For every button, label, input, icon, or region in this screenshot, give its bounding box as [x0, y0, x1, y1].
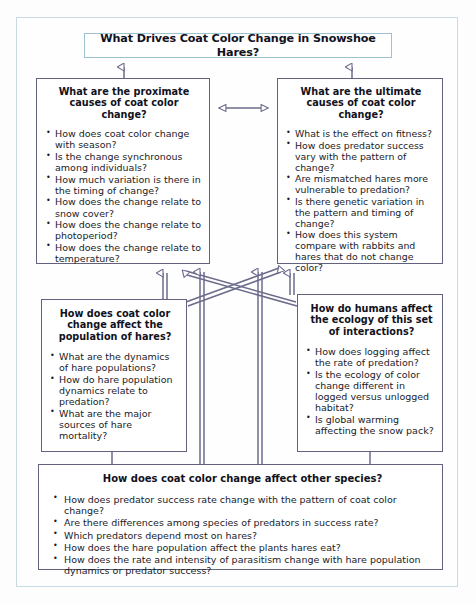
node-proximate-bullets: How does coat color change with season? …: [46, 128, 202, 264]
node-other-species-bullets: How does predator success rate change wi…: [53, 494, 432, 577]
list-item: How much variation is there in the timin…: [46, 174, 202, 196]
diagram-page: What Drives Coat Color Change in Snowsho…: [0, 0, 476, 605]
list-item: Is global warming affecting the snow pac…: [306, 414, 437, 436]
list-item: How does the change relate to temperatur…: [46, 242, 202, 264]
list-item: How does coat color change with season?: [46, 128, 202, 150]
list-item: Is there genetic variation in the patter…: [286, 196, 436, 229]
node-human-effects: How do humans affect the ecology of this…: [297, 294, 443, 452]
list-item: Are mismatched hares more vulnerable to …: [286, 173, 436, 195]
list-item: Are there differences among species of p…: [53, 517, 432, 528]
list-item: What are the major sources of hare morta…: [50, 408, 180, 441]
node-proximate-causes: What are the proximate causes of coat co…: [36, 78, 210, 264]
list-item: How does predator success rate change wi…: [53, 494, 432, 516]
title-banner-text: What Drives Coat Color Change in Snowsho…: [85, 32, 391, 58]
list-item: What are the dynamics of hare population…: [50, 351, 180, 373]
node-ultimate-title: What are the ultimate causes of coat col…: [286, 86, 436, 120]
list-item: Is the change synchronous among individu…: [46, 151, 202, 173]
list-item: What is the effect on fitness?: [286, 128, 436, 139]
list-item: How does the hare population affect the …: [53, 542, 432, 553]
list-item: Is the ecology of color change different…: [306, 369, 437, 413]
list-item: Which predators depend most on hares?: [53, 530, 432, 541]
node-humans-title: How do humans affect the ecology of this…: [306, 303, 437, 337]
list-item: How does the rate and intensity of paras…: [53, 554, 432, 576]
node-hare-population: How does coat color change affect the po…: [41, 299, 187, 452]
list-item: How does the change relate to photoperio…: [46, 219, 202, 241]
node-other-species: How does coat color change affect other …: [38, 464, 443, 570]
node-proximate-title: What are the proximate causes of coat co…: [46, 86, 202, 120]
node-other-species-title: How does coat color change affect other …: [53, 473, 432, 485]
list-item: How do hare population dynamics relate t…: [50, 374, 180, 407]
node-ultimate-causes: What are the ultimate causes of coat col…: [277, 78, 443, 264]
list-item: How does predator success vary with the …: [286, 140, 436, 173]
node-title-banner: What Drives Coat Color Change in Snowsho…: [84, 33, 392, 58]
node-population-title: How does coat color change affect the po…: [50, 308, 180, 342]
list-item: How does logging affect the rate of pred…: [306, 346, 437, 368]
node-humans-bullets: How does logging affect the rate of pred…: [306, 346, 437, 436]
node-ultimate-bullets: What is the effect on fitness? How does …: [286, 128, 436, 273]
list-item: How does this system compare with rabbit…: [286, 229, 436, 273]
node-population-bullets: What are the dynamics of hare population…: [50, 351, 180, 441]
list-item: How does the change relate to snow cover…: [46, 196, 202, 218]
